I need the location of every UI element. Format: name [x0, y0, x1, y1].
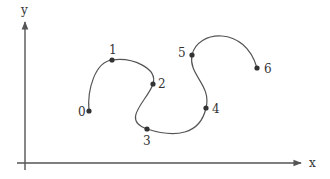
- control-point-5: [189, 52, 194, 57]
- control-point-label: 3: [143, 134, 151, 148]
- control-point-label: 4: [212, 102, 220, 116]
- control-point-label: 6: [264, 62, 272, 76]
- control-points: 0123456: [78, 43, 272, 148]
- control-point-2: [150, 81, 155, 86]
- control-point-label: 1: [109, 43, 117, 57]
- y-axis-label: y: [20, 3, 28, 17]
- control-point-label: 0: [78, 105, 86, 119]
- control-point-label: 5: [178, 46, 186, 60]
- control-point-0: [86, 108, 91, 113]
- control-point-3: [144, 126, 149, 131]
- control-point-4: [203, 105, 208, 110]
- control-point-1: [109, 57, 114, 62]
- control-point-6: [254, 65, 259, 70]
- control-point-label: 2: [158, 77, 166, 91]
- x-axis-label: x: [309, 156, 316, 170]
- spline-diagram: y x 0123456: [0, 0, 330, 179]
